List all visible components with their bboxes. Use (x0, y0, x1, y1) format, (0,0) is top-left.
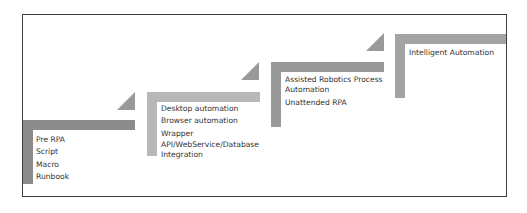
stage-3-item: Assisted Robotics Process Automation (285, 75, 385, 95)
stage-3-top-bar (271, 62, 384, 72)
stage-2-item: Browser automation (161, 115, 261, 127)
stage-3-text: Assisted Robotics Process Automation Una… (285, 75, 385, 110)
stage-2-side-bar (147, 92, 157, 156)
stage-2-item: API/WebService/Database Integration (161, 140, 261, 160)
stage-2-text: Desktop automation Browser automation Wr… (161, 103, 261, 162)
stage-1-text: Pre RPA Script Macro Runbook (36, 134, 136, 183)
stage-3-side-bar (271, 62, 281, 127)
stage-2-arrow-triangle (241, 62, 259, 80)
stage-4-top-bar (395, 34, 506, 44)
stage-1-item: Runbook (36, 171, 136, 183)
stage-1-item: Script (36, 146, 136, 158)
stage-1-top-bar (23, 120, 135, 130)
stage-2-top-bar (147, 92, 260, 102)
stage-4-text: Intelligent Automation (409, 47, 509, 59)
stage-2-item: Wrapper (161, 128, 261, 140)
stage-3-arrow-triangle (366, 33, 384, 51)
stage-1-arrow-triangle (117, 92, 135, 110)
stage-1-item: Macro (36, 159, 136, 171)
stage-4-item: Intelligent Automation (409, 47, 509, 59)
stage-2-item: Desktop automation (161, 103, 261, 115)
stage-3-item: Unattended RPA (285, 97, 385, 109)
stage-1-side-bar (23, 120, 33, 184)
stage-4-side-bar (395, 34, 405, 98)
stage-1-item: Pre RPA (36, 134, 136, 146)
